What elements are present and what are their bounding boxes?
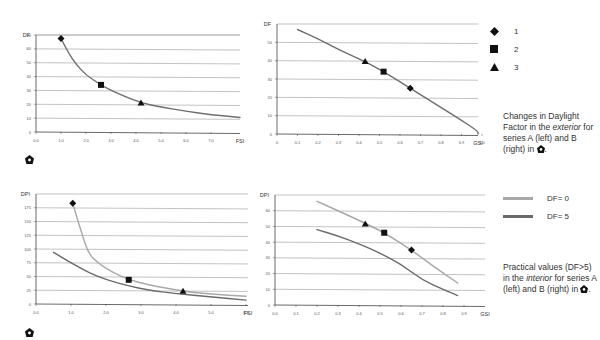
x-tick-label: 0.7 (419, 311, 425, 316)
x-tick-label: 0.1 (295, 140, 301, 145)
gridline (36, 222, 248, 223)
y-tick-label: 75 (27, 260, 32, 265)
legend-line-df0: DF= 0 (503, 189, 569, 207)
x-tick-label: 6.0 (183, 138, 189, 143)
x-tick-label: 4.0 (173, 310, 179, 315)
x-tick-label: 1.0 (68, 310, 74, 315)
x-tick-label: 3.0 (138, 310, 144, 315)
house-marker-icon (537, 145, 545, 153)
marker-legend: 1 2 3 (484, 22, 518, 76)
legend-label: 1 (514, 27, 518, 36)
diamond-marker (69, 200, 76, 207)
gridline (36, 77, 240, 78)
x-tick-label: 0.5 (377, 311, 383, 316)
y-tick-label: 10 (27, 116, 32, 121)
gridline (36, 63, 240, 64)
line-legend: DF= 0 DF= 5 (503, 189, 569, 225)
x-tick-label: 0.8 (438, 140, 444, 145)
x-tick-label: 5.0 (208, 310, 214, 315)
x-tick-label: 5.0 (158, 138, 164, 143)
caption-bottom: Practical values (DF>5) in the interior … (503, 262, 598, 295)
x-tick-label: 0.3 (335, 311, 341, 316)
y-tick-label: 20 (268, 95, 273, 100)
gridline (36, 249, 248, 250)
gridline (277, 42, 478, 43)
y-tick-label: 175 (24, 205, 31, 210)
chart-bottom-right: 0102030405060DPI0.00.10.20.30.40.50.60.7… (260, 192, 490, 318)
x-tick-label: 0.9 (461, 311, 467, 316)
x-tick-label: 0.2 (315, 140, 321, 145)
y-tick-label: 30 (268, 77, 273, 82)
square-marker (381, 69, 387, 75)
x-tick-label: 0.6 (398, 311, 404, 316)
x-tick-label: 0.0 (33, 310, 39, 315)
diamond-icon (484, 27, 504, 36)
square-icon (484, 45, 504, 53)
square-marker (98, 82, 104, 88)
gridline (275, 242, 485, 243)
x-tick-label: 2.0 (103, 310, 109, 315)
y-axis-label: DF (23, 32, 31, 38)
series-line-df5 (54, 252, 247, 300)
x-tick-label: 7.0 (208, 138, 214, 143)
legend-label: 3 (514, 63, 518, 72)
y-axis-label: DF (264, 21, 272, 27)
x-tick-label: 0.4 (356, 140, 362, 145)
x-tick-label: 0.1 (293, 311, 299, 316)
gridline (36, 263, 248, 264)
y-tick-label: 40 (268, 58, 273, 63)
x-tick-label: 3.0 (108, 138, 114, 143)
y-tick-label: 40 (27, 74, 32, 79)
house-marker-icon (580, 285, 588, 293)
legend-item-3: 3 (484, 58, 518, 76)
y-tick-label: 100 (24, 247, 31, 252)
square-marker (381, 230, 387, 236)
gridline (275, 211, 485, 212)
chart-top-right: 01020304050DF00.10.20.30.40.50.60.70.80.… (264, 21, 486, 147)
x-tick-label: 0.4 (356, 311, 362, 316)
x-axis-label: FSI (236, 138, 245, 144)
y-tick-label: 0 (268, 303, 271, 308)
y-tick-label: 0 (29, 130, 32, 135)
chart-top-left: 010203040506070DF0.01.02.03.04.05.06.07.… (23, 32, 245, 145)
y-tick-label: 30 (27, 88, 32, 93)
y-tick-label: 40 (266, 240, 271, 245)
gridline (277, 116, 478, 117)
line-swatch-dark (503, 215, 533, 218)
legend-label: 2 (514, 45, 518, 54)
gridline (277, 61, 478, 62)
gridline (36, 290, 248, 291)
series-line-df5 (317, 230, 458, 296)
x-tick-label: 0.2 (314, 311, 320, 316)
y-tick-label: 50 (27, 60, 32, 65)
chart-bottom-left: 0255075100125150175DPI0.01.02.03.04.05.0… (21, 191, 253, 317)
x-tick-label: 2.0 (83, 138, 89, 143)
x-axis (36, 132, 240, 134)
x-tick-label: 4.0 (133, 138, 139, 143)
y-tick-label: 10 (266, 287, 271, 292)
y-tick-label: 30 (266, 255, 271, 260)
gridline (36, 208, 248, 209)
gridline (275, 274, 485, 275)
gridline (275, 258, 485, 259)
x-tick-label: 0.3 (336, 140, 342, 145)
y-tick-label: 20 (27, 102, 32, 107)
gridline (277, 79, 478, 80)
square-marker (126, 277, 132, 283)
y-tick-label: 0 (29, 302, 32, 307)
x-tick-label: 0.8 (440, 311, 446, 316)
house-marker-icon (25, 155, 34, 164)
x-tick-label: 1.0 (58, 138, 64, 143)
y-axis-label: DPI (21, 191, 31, 197)
legend-line-df5: DF= 5 (503, 207, 569, 225)
y-tick-label: 25 (27, 288, 32, 293)
diamond-marker (407, 85, 414, 92)
x-tick-label: 0.7 (418, 140, 424, 145)
y-tick-label: 10 (268, 113, 273, 118)
x-axis (36, 304, 248, 306)
gridline (277, 97, 478, 98)
gridline (275, 226, 485, 227)
gridline (36, 118, 240, 119)
y-tick-label: 50 (266, 224, 271, 229)
y-tick-label: 150 (24, 219, 31, 224)
